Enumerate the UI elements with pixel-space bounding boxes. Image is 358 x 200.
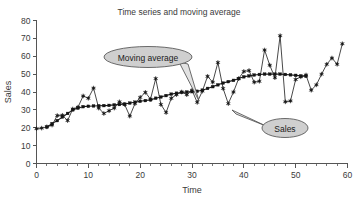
data-point-marker: [92, 105, 95, 108]
data-point-marker: [170, 93, 173, 96]
y-tick-label: 60: [21, 51, 31, 61]
data-point-marker: [154, 97, 157, 100]
data-point-marker: [274, 73, 277, 76]
x-tick-label: 10: [84, 170, 94, 180]
data-point-marker: [134, 101, 137, 104]
data-point-marker: [263, 48, 267, 53]
x-tick-label: 30: [187, 170, 197, 180]
data-point-marker: [160, 96, 163, 99]
moving-average-callout-tail: [179, 62, 199, 101]
data-point-marker: [66, 112, 69, 115]
x-tick-label: 40: [239, 170, 249, 180]
data-point-marker: [222, 82, 225, 85]
data-point-marker: [144, 99, 147, 102]
data-point-marker: [81, 94, 85, 99]
data-point-marker: [165, 94, 168, 97]
data-point-marker: [123, 103, 126, 106]
data-point-marker: [154, 76, 158, 81]
data-point-marker: [226, 101, 230, 106]
y-axis-label: Sales: [3, 80, 13, 103]
data-point-marker: [191, 90, 194, 93]
data-point-marker: [211, 85, 214, 88]
sales-callout-tail: [232, 110, 266, 126]
x-tick-label: 20: [135, 170, 145, 180]
data-point-marker: [216, 60, 220, 65]
y-tick-label: 0: [26, 159, 31, 169]
data-point-marker: [253, 74, 256, 77]
data-point-marker: [299, 75, 302, 78]
data-point-marker: [180, 91, 183, 94]
data-point-marker: [268, 73, 271, 76]
data-point-marker: [242, 75, 245, 78]
data-point-marker: [102, 104, 105, 107]
data-point-marker: [279, 73, 282, 76]
x-tick-label: 60: [343, 170, 353, 180]
data-point-marker: [206, 87, 209, 90]
data-point-marker: [56, 119, 59, 122]
data-point-marker: [258, 73, 261, 76]
x-tick-label: 50: [291, 170, 301, 180]
y-tick-label: 20: [21, 123, 31, 133]
data-point-marker: [45, 126, 48, 129]
data-point-marker: [118, 103, 121, 106]
data-point-marker: [294, 74, 297, 77]
annotation-moving-average[interactable]: Moving average: [104, 47, 199, 102]
data-point-marker: [82, 105, 85, 108]
data-point-marker: [113, 103, 116, 106]
data-point-marker: [185, 91, 188, 94]
data-point-marker: [284, 73, 287, 76]
data-point-marker: [87, 105, 90, 108]
data-point-marker: [320, 72, 324, 77]
x-tick-label: 0: [34, 170, 39, 180]
data-point-marker: [305, 75, 308, 78]
moving-average-callout-label: Moving average: [118, 53, 179, 63]
data-point-marker: [231, 90, 235, 95]
data-point-marker: [86, 96, 90, 101]
data-point-marker: [128, 102, 131, 105]
data-point-marker: [237, 77, 240, 80]
time-series-chart: Time series and moving average Sales Tim…: [0, 0, 358, 200]
data-point-marker: [221, 86, 225, 91]
y-tick-label: 40: [21, 87, 31, 97]
data-point-marker: [263, 73, 266, 76]
data-point-marker: [92, 86, 96, 91]
y-tick-label: 70: [21, 33, 31, 43]
x-axis-label: Time: [182, 185, 202, 195]
series-line-1: [47, 74, 306, 127]
data-point-marker: [51, 122, 54, 125]
y-tick-label: 80: [21, 16, 31, 26]
data-point-marker: [340, 41, 344, 46]
y-axis-ticks: 01020304050607080: [21, 16, 36, 169]
chart-title: Time series and moving average: [118, 7, 241, 17]
x-axis-ticks: 0102030405060: [34, 164, 352, 180]
data-point-marker: [71, 108, 74, 111]
y-tick-label: 30: [21, 105, 31, 115]
data-point-marker: [175, 92, 178, 95]
data-point-marker: [108, 104, 111, 107]
chart-page: Time series and moving average Sales Tim…: [0, 0, 358, 200]
sales-callout-label: Sales: [274, 124, 295, 134]
data-point-marker: [61, 116, 64, 119]
data-point-marker: [77, 107, 80, 110]
data-point-marker: [139, 100, 142, 103]
y-tick-label: 10: [21, 141, 31, 151]
data-point-marker: [128, 114, 132, 119]
data-point-marker: [289, 73, 292, 76]
data-point-marker: [232, 79, 235, 82]
data-point-marker: [201, 89, 204, 92]
data-point-marker: [107, 108, 111, 113]
data-point-marker: [268, 63, 272, 68]
data-point-marker: [149, 98, 152, 101]
data-point-marker: [248, 75, 251, 78]
data-point-marker: [273, 75, 277, 80]
y-tick-label: 50: [21, 69, 31, 79]
data-point-marker: [217, 83, 220, 86]
data-point-marker: [169, 96, 173, 101]
data-point-marker: [97, 104, 100, 107]
annotation-sales[interactable]: Sales: [232, 110, 308, 138]
data-point-marker: [294, 77, 298, 82]
data-point-marker: [227, 80, 230, 83]
data-point-marker: [278, 33, 282, 38]
